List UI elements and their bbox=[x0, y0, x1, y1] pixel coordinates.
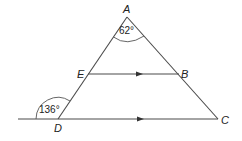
point-label-A: A bbox=[122, 3, 130, 15]
angle-A-label: 62° bbox=[119, 25, 134, 36]
segment-AD bbox=[58, 17, 127, 119]
parallel-arrow-DC-icon bbox=[137, 117, 144, 122]
segment-AC bbox=[127, 17, 218, 119]
point-label-D: D bbox=[54, 122, 62, 134]
angle-D-label: 136° bbox=[39, 104, 60, 115]
point-label-B: B bbox=[181, 68, 188, 80]
parallel-arrow-EB-icon bbox=[136, 72, 143, 77]
angle-arc-A bbox=[114, 36, 145, 42]
point-label-E: E bbox=[77, 68, 85, 80]
geometry-diagram: 62° 136° A E B D C bbox=[0, 0, 242, 141]
point-label-C: C bbox=[221, 114, 229, 126]
